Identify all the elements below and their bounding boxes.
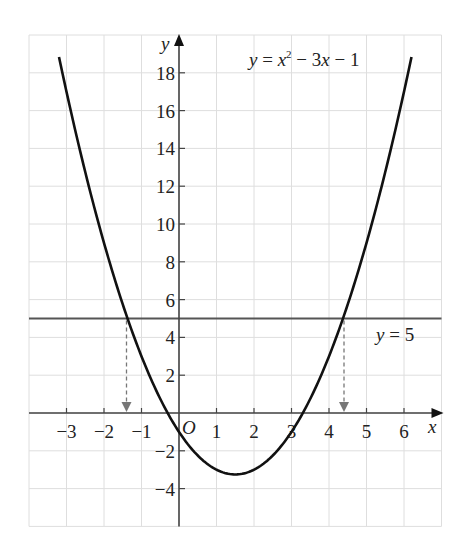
x-tick-label: 1	[212, 421, 222, 442]
axes	[29, 34, 444, 526]
grid	[29, 35, 442, 526]
parabola-curve	[59, 57, 412, 475]
y-tick-label: 12	[156, 176, 175, 197]
x-tick-label: 6	[399, 421, 409, 442]
x-tick-label: 2	[249, 421, 259, 442]
x-tick-label: 5	[362, 421, 372, 442]
x-tick-label: −2	[94, 421, 114, 442]
origin-label: O	[182, 417, 196, 438]
y-tick-label: 4	[166, 327, 176, 348]
x-tick-label: 4	[324, 421, 334, 442]
y-tick-label: 6	[166, 290, 176, 311]
dashed-arrows	[122, 321, 350, 413]
y-axis-label: y	[159, 33, 170, 54]
chart-canvas: −3−2−1123456−4−224681012141618 y x O y =…	[0, 0, 466, 546]
line-equation-label: y = 5	[374, 324, 414, 345]
y-tick-label: 2	[166, 365, 176, 386]
y-tick-label: −2	[155, 441, 175, 462]
y-tick-label: 18	[156, 63, 175, 84]
y-tick-label: −4	[155, 479, 176, 500]
y-tick-label: 10	[156, 214, 175, 235]
y-tick-label: 16	[156, 101, 175, 122]
x-tick-label: −1	[131, 421, 151, 442]
y-tick-label: 14	[156, 138, 176, 159]
y-tick-label: 8	[166, 252, 176, 273]
x-axis-label: x	[427, 416, 437, 437]
curve-equation-label: y = x2 − 3x − 1	[247, 48, 359, 70]
x-tick-label: −3	[56, 421, 76, 442]
